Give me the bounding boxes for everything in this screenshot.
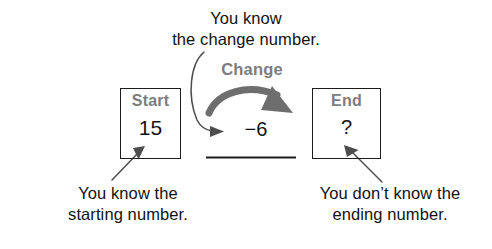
caption-ending-number: You don’t know the ending number. [292,183,488,225]
start-box-value: 15 [121,116,180,140]
diagram-canvas: You know the change number. Start 15 Cha… [0,0,492,249]
curved-arrow-right-icon [209,86,293,113]
change-value: −6 [228,118,284,141]
end-box-label: End [313,92,380,110]
caption-change-number: You know the change number. [0,8,492,50]
end-box-value: ? [313,116,380,139]
start-box: Start 15 [120,88,181,159]
start-box-label: Start [121,92,180,110]
change-label: Change [212,60,292,79]
end-box: End ? [312,88,381,159]
caption-starting-number: You know the starting number. [28,183,228,225]
